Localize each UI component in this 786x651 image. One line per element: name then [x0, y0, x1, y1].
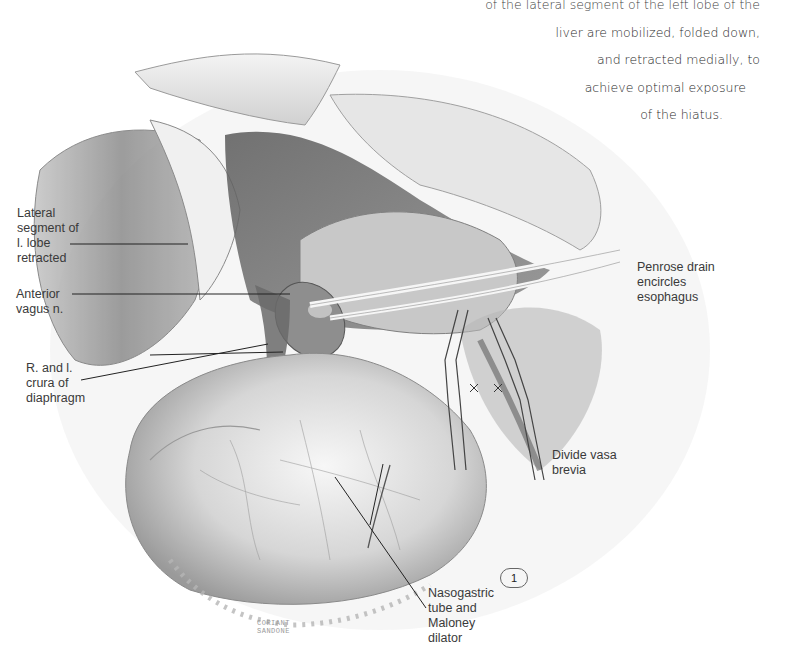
label-line: encircles	[637, 275, 715, 290]
signature-line: CORIANT	[257, 619, 290, 627]
label-anterior-vagus: Anterior vagus n.	[16, 287, 63, 317]
figure-number-badge: 1	[500, 568, 528, 588]
label-crura: R. and l. crura of diaphragm	[26, 361, 85, 406]
label-line: segment of	[17, 221, 79, 236]
label-line: Penrose drain	[637, 260, 715, 275]
label-line: tube and	[428, 601, 494, 616]
label-line: Nasogastric	[428, 586, 494, 601]
label-line: esophagus	[637, 290, 715, 305]
label-line: R. and l.	[26, 361, 85, 376]
artist-signature: CORIANT SANDONE	[257, 619, 290, 635]
label-line: diaphragm	[26, 391, 85, 406]
label-nasogastric: Nasogastric tube and Maloney dilator	[428, 586, 494, 646]
label-line: Maloney	[428, 616, 494, 631]
label-line: l. lobe	[17, 236, 79, 251]
label-penrose-drain: Penrose drain encircles esophagus	[637, 260, 715, 305]
label-line: crura of	[26, 376, 85, 391]
label-line: Divide vasa	[552, 448, 617, 463]
label-line: Anterior	[16, 287, 63, 302]
label-lateral-segment: Lateral segment of l. lobe retracted	[17, 206, 79, 266]
label-vasa-brevia: Divide vasa brevia	[552, 448, 617, 478]
label-line: brevia	[552, 463, 617, 478]
label-line: vagus n.	[16, 302, 63, 317]
label-line: retracted	[17, 251, 79, 266]
signature-line: SANDONE	[257, 627, 290, 635]
label-line: dilator	[428, 631, 494, 646]
label-line: Lateral	[17, 206, 79, 221]
surgical-illustration	[0, 0, 786, 651]
